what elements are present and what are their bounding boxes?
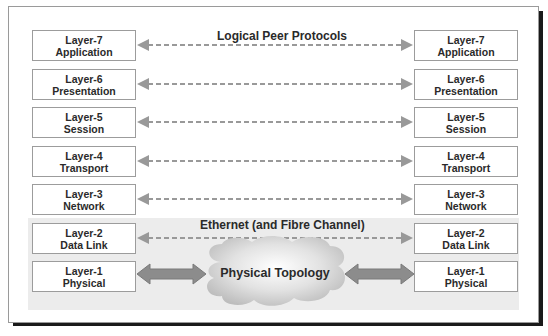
right-layer-2-box: Layer-2 Data Link xyxy=(414,223,518,254)
right-layer-1-box: Layer-1 Physical xyxy=(414,261,518,292)
layer-name: Physical xyxy=(445,277,488,289)
layer-number: Layer-6 xyxy=(447,73,484,85)
arrowhead-right-icon xyxy=(401,193,413,205)
left-layer-7-box: Layer-7 Application xyxy=(32,30,136,61)
layer-name: Transport xyxy=(60,162,108,174)
arrowhead-left-icon xyxy=(137,193,149,205)
left-layer-5-box: Layer-5 Session xyxy=(32,107,136,138)
layer-name: Network xyxy=(63,200,104,212)
right-layer-6-box: Layer-6 Presentation xyxy=(414,69,518,100)
peer-protocol-arrows xyxy=(137,39,413,244)
left-layer-2-box: Layer-2 Data Link xyxy=(32,223,136,254)
layer-name: Transport xyxy=(442,162,490,174)
layer-number: Layer-2 xyxy=(65,227,102,239)
layer-number: Layer-3 xyxy=(65,188,102,200)
layer-name: Session xyxy=(64,123,104,135)
arrowhead-left-icon xyxy=(137,116,149,128)
layer-name: Application xyxy=(437,46,494,58)
peer-arrow-layer-5 xyxy=(137,116,413,128)
arrowhead-right-icon xyxy=(401,39,413,51)
ethernet-label: Ethernet (and Fibre Channel) xyxy=(200,218,365,232)
layer-name: Presentation xyxy=(434,85,498,97)
layer-number: Layer-7 xyxy=(447,34,484,46)
layer-name: Data Link xyxy=(60,239,107,251)
layer-number: Layer-4 xyxy=(447,150,484,162)
peer-arrow-layer-4 xyxy=(137,155,413,167)
arrowhead-left-icon xyxy=(137,232,149,244)
arrowhead-left-icon xyxy=(137,155,149,167)
logical-peer-protocols-label: Logical Peer Protocols xyxy=(217,29,347,43)
layer-number: Layer-1 xyxy=(65,265,102,277)
arrowhead-right-icon xyxy=(401,78,413,90)
right-layer-4-box: Layer-4 Transport xyxy=(414,146,518,177)
layer-number: Layer-2 xyxy=(447,227,484,239)
left-layer-3-box: Layer-3 Network xyxy=(32,184,136,215)
layer-name: Physical xyxy=(63,277,106,289)
peer-arrow-layer-3 xyxy=(137,193,413,205)
right-layer-3-box: Layer-3 Network xyxy=(414,184,518,215)
layer-number: Layer-3 xyxy=(447,188,484,200)
layer-number: Layer-5 xyxy=(65,111,102,123)
right-layer-7-box: Layer-7 Application xyxy=(414,30,518,61)
arrowhead-right-icon xyxy=(401,155,413,167)
arrowhead-left-icon xyxy=(137,39,149,51)
left-layer-4-box: Layer-4 Transport xyxy=(32,146,136,177)
layer-number: Layer-5 xyxy=(447,111,484,123)
layer-name: Data Link xyxy=(442,239,489,251)
arrowhead-right-icon xyxy=(401,232,413,244)
layer-number: Layer-4 xyxy=(65,150,102,162)
layer-name: Presentation xyxy=(52,85,116,97)
layer-number: Layer-7 xyxy=(65,34,102,46)
right-layer-5-box: Layer-5 Session xyxy=(414,107,518,138)
peer-arrow-layer-6 xyxy=(137,78,413,90)
double-arrow-right xyxy=(345,264,414,284)
left-layer-6-box: Layer-6 Presentation xyxy=(32,69,136,100)
left-layer-1-box: Layer-1 Physical xyxy=(32,261,136,292)
arrowhead-right-icon xyxy=(401,116,413,128)
layer-name: Session xyxy=(446,123,486,135)
physical-topology-label: Physical Topology xyxy=(204,266,346,280)
layer-name: Application xyxy=(55,46,112,58)
layer-number: Layer-1 xyxy=(447,265,484,277)
layer-name: Network xyxy=(445,200,486,212)
layer-number: Layer-6 xyxy=(65,73,102,85)
double-arrow-left xyxy=(137,264,206,284)
arrowhead-left-icon xyxy=(137,78,149,90)
